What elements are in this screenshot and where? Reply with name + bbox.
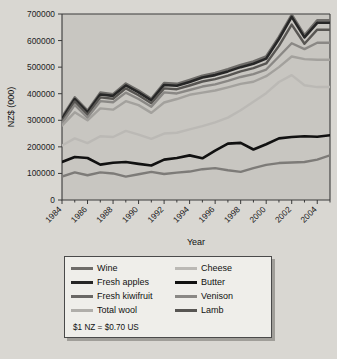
- legend-item-butter[interactable]: Butter: [175, 278, 267, 287]
- legend-swatch-icon: [175, 295, 197, 298]
- legend-item-lamb[interactable]: Lamb: [175, 306, 267, 315]
- y-tick-label: 600000: [27, 36, 55, 46]
- legend-swatch-icon: [71, 281, 93, 284]
- x-tick-label: 1992: [145, 204, 165, 224]
- legend-item-total-wool[interactable]: Total wool: [71, 306, 175, 315]
- y-tick-label: 400000: [27, 89, 55, 99]
- legend-swatch-icon: [71, 309, 93, 312]
- x-tick-label: 1990: [120, 204, 140, 224]
- x-tick-label: 1994: [171, 204, 191, 224]
- legend-item-fresh-kiwifruit[interactable]: Fresh kiwifruit: [71, 292, 175, 301]
- x-tick-label: 2004: [298, 204, 318, 224]
- x-tick-label: 1998: [222, 204, 242, 224]
- legend-swatch-icon: [71, 295, 93, 298]
- legend-item-label: Butter: [201, 278, 225, 287]
- legend-item-label: Wine: [97, 264, 118, 273]
- legend-item-cheese[interactable]: Cheese: [175, 264, 267, 273]
- x-tick-label: 2002: [273, 204, 293, 224]
- chart-svg: 0100000200000300000400000500000600000700…: [0, 0, 337, 250]
- y-tick-label: 0: [50, 195, 55, 205]
- legend-box: WineCheeseFresh applesButterFresh kiwifr…: [64, 256, 272, 338]
- x-tick-label: 1996: [196, 204, 216, 224]
- legend-swatch-icon: [175, 281, 197, 284]
- legend-swatch-icon: [175, 267, 197, 270]
- legend-item-label: Fresh apples: [97, 278, 149, 287]
- chart-legend: WineCheeseFresh applesButterFresh kiwifr…: [64, 256, 276, 342]
- y-tick-label: 200000: [27, 142, 55, 152]
- x-tick-label: 1986: [69, 204, 89, 224]
- legend-item-venison[interactable]: Venison: [175, 292, 267, 301]
- chart-page: 0100000200000300000400000500000600000700…: [0, 0, 337, 359]
- y-tick-label: 500000: [27, 62, 55, 72]
- y-axis-label: NZ$ (000): [6, 87, 16, 128]
- legend-items: WineCheeseFresh applesButterFresh kiwifr…: [71, 261, 267, 317]
- x-tick-label: 1988: [94, 204, 114, 224]
- legend-item-label: Venison: [201, 292, 233, 301]
- legend-swatch-icon: [175, 309, 197, 312]
- legend-item-fresh-apples[interactable]: Fresh apples: [71, 278, 175, 287]
- legend-item-label: Lamb: [201, 306, 224, 315]
- y-tick-label: 100000: [27, 168, 55, 178]
- legend-item-wine[interactable]: Wine: [71, 264, 175, 273]
- x-axis-label: Year: [187, 237, 205, 247]
- legend-item-label: Total wool: [97, 306, 137, 315]
- x-tick-label: 2000: [247, 204, 267, 224]
- y-tick-label: 700000: [27, 9, 55, 19]
- legend-note: $1 NZ = $0.70 US: [73, 323, 139, 332]
- legend-swatch-icon: [71, 267, 93, 270]
- legend-item-label: Fresh kiwifruit: [97, 292, 153, 301]
- y-tick-label: 300000: [27, 115, 55, 125]
- legend-item-label: Cheese: [201, 264, 232, 273]
- line-chart: 0100000200000300000400000500000600000700…: [0, 0, 337, 250]
- x-tick-label: 1984: [43, 204, 63, 224]
